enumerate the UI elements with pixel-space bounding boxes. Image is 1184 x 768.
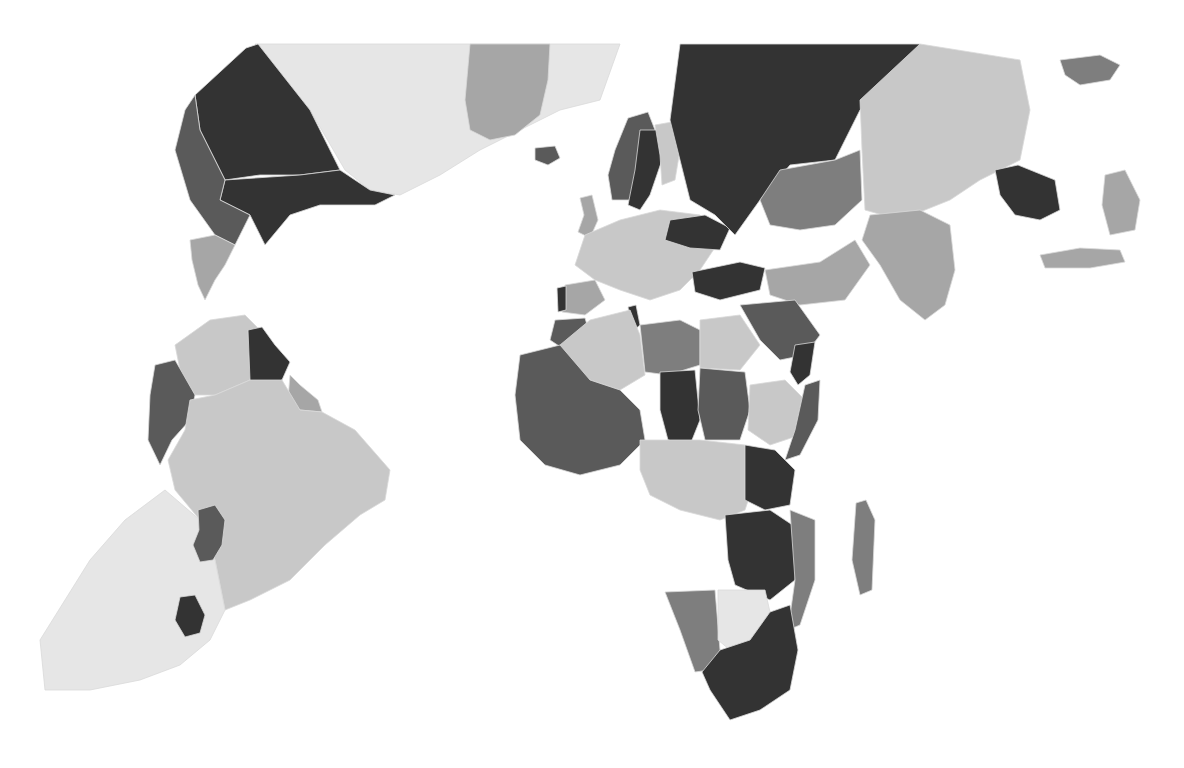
- region-greenland[interactable]: Greenland: [465, 44, 550, 140]
- region-turkey[interactable]: Turkey: [692, 262, 765, 300]
- choropleth-map: Canada Alaska/West (dark) United States …: [0, 0, 1184, 768]
- region-india[interactable]: India: [862, 210, 955, 320]
- region-madagascar[interactable]: Madagascar: [852, 500, 875, 595]
- region-southeast-asia[interactable]: Southeast Asia: [995, 165, 1060, 220]
- region-central-america[interactable]: Central America: [190, 235, 235, 300]
- region-libya[interactable]: Libya: [640, 320, 700, 375]
- world-map-svg: Canada Alaska/West (dark) United States …: [0, 0, 1184, 768]
- region-central-africa[interactable]: Central Africa: [640, 440, 755, 520]
- region-australia-region[interactable]: Pacific islands: [1060, 55, 1120, 85]
- region-portugal[interactable]: Portugal: [557, 286, 566, 312]
- region-iceland[interactable]: Iceland: [535, 146, 560, 165]
- region-zambia-zimbabwe[interactable]: Zambia/Zimbabwe: [725, 510, 800, 600]
- region-chad[interactable]: Chad: [660, 370, 700, 445]
- region-iran[interactable]: Iran: [765, 240, 870, 305]
- region-indonesia[interactable]: Indonesia: [1040, 248, 1125, 268]
- region-sudan[interactable]: Sudan: [698, 368, 750, 440]
- region-iberia[interactable]: Spain: [562, 280, 605, 315]
- region-argentina-chile[interactable]: Argentina/Chile: [40, 490, 225, 690]
- region-japan-east[interactable]: Japan region: [1102, 170, 1140, 235]
